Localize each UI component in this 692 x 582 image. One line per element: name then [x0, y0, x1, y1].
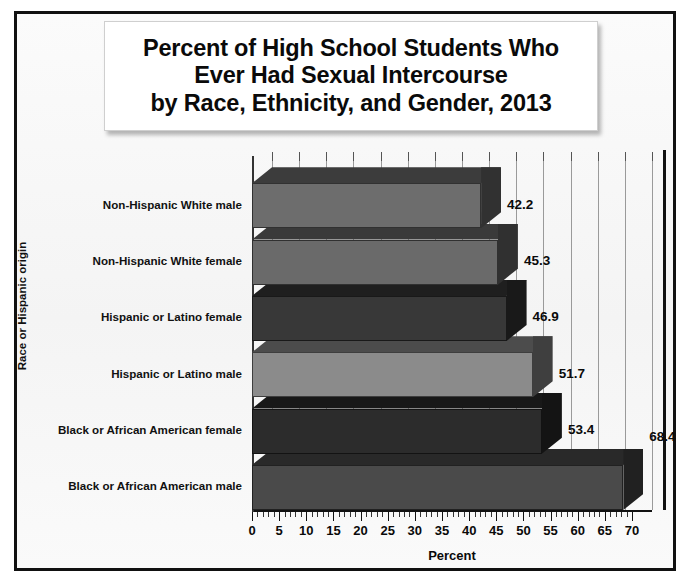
x-axis-major-tick	[496, 512, 497, 521]
x-axis-minor-tick	[464, 512, 465, 517]
x-axis-major-tick	[469, 512, 470, 521]
x-axis-minor-tick	[621, 512, 622, 517]
y-axis-tick-label: Hispanic or Latino female	[101, 310, 242, 323]
x-axis-minor-tick	[290, 512, 291, 517]
bar-value-label: 46.9	[533, 309, 559, 324]
x-axis-minor-tick	[285, 512, 286, 517]
x-axis-tick-label: 40	[462, 523, 476, 538]
x-axis-tick-label: 5	[276, 523, 283, 538]
plot-right-border	[663, 150, 666, 510]
x-axis-minor-tick	[268, 512, 269, 517]
x-axis-major-tick	[578, 512, 579, 521]
x-axis-minor-tick	[491, 512, 492, 517]
x-axis-major-tick	[306, 512, 307, 521]
x-axis-minor-tick	[502, 512, 503, 517]
x-axis-minor-tick	[475, 512, 476, 517]
bar-side-face	[481, 167, 501, 228]
bar-top-face	[252, 167, 501, 183]
x-axis-minor-tick	[382, 512, 383, 517]
x-axis-major-tick	[279, 512, 280, 521]
top-axis-tick	[652, 152, 653, 161]
x-axis-minor-tick	[507, 512, 508, 517]
bar-value-label: 51.7	[559, 366, 585, 381]
x-axis-major-tick	[252, 512, 253, 521]
bar-group	[252, 156, 652, 510]
x-axis-minor-tick	[404, 512, 405, 517]
x-axis-minor-tick	[583, 512, 584, 517]
bar-series: 42.245.346.951.753.468.4	[252, 156, 652, 510]
x-axis-minor-tick	[545, 512, 546, 517]
x-axis-tick-label: 70	[625, 523, 639, 538]
x-axis-minor-tick	[377, 512, 378, 517]
x-axis-tick-label: 60	[570, 523, 584, 538]
x-axis-minor-tick	[426, 512, 427, 517]
x-axis-major-tick	[333, 512, 334, 521]
x-axis-minor-tick	[594, 512, 595, 517]
x-axis-major-tick	[361, 512, 362, 521]
x-axis-minor-tick	[458, 512, 459, 517]
chart-title-line-2: Ever Had Sexual Intercourse	[194, 62, 507, 89]
x-axis: Percent 0510152025303540455055606570	[252, 510, 652, 570]
x-axis-minor-tick	[453, 512, 454, 517]
chart-title-box: Percent of High School Students Who Ever…	[104, 21, 598, 131]
x-axis-minor-tick	[366, 512, 367, 517]
x-axis-minor-tick	[323, 512, 324, 517]
bar-value-label: 68.4	[649, 429, 675, 444]
x-axis-major-tick	[523, 512, 524, 521]
x-axis-major-tick	[605, 512, 606, 521]
chart-page: Percent of High School Students Who Ever…	[0, 0, 692, 582]
x-axis-major-tick	[632, 512, 633, 521]
x-axis-minor-tick	[328, 512, 329, 517]
y-axis-tick-label: Black or African American male	[68, 479, 242, 492]
x-axis-minor-tick	[567, 512, 568, 517]
x-axis-major-tick	[415, 512, 416, 521]
x-axis-minor-tick	[399, 512, 400, 517]
x-axis-minor-tick	[480, 512, 481, 517]
x-axis-major-tick	[551, 512, 552, 521]
x-axis-minor-tick	[317, 512, 318, 517]
x-axis-minor-tick	[301, 512, 302, 517]
x-axis-minor-tick	[589, 512, 590, 517]
x-axis-tick-label: 45	[489, 523, 503, 538]
x-axis-minor-tick	[312, 512, 313, 517]
x-axis-tick-label: 20	[353, 523, 367, 538]
x-axis-tick-label: 50	[516, 523, 530, 538]
x-axis-minor-tick	[627, 512, 628, 517]
gridline	[652, 156, 653, 510]
x-axis-minor-tick	[529, 512, 530, 517]
bar-value-label: 45.3	[524, 253, 550, 268]
x-axis-major-tick	[442, 512, 443, 521]
x-axis-minor-tick	[513, 512, 514, 517]
chart-title-line-3: by Race, Ethnicity, and Gender, 2013	[150, 90, 551, 117]
x-axis-tick-label: 65	[598, 523, 612, 538]
x-axis-major-tick	[388, 512, 389, 521]
y-axis-tick-label: Non-Hispanic White female	[93, 254, 242, 267]
x-axis-minor-tick	[431, 512, 432, 517]
x-axis-tick-label: 15	[326, 523, 340, 538]
x-axis-minor-tick	[420, 512, 421, 517]
x-axis-minor-tick	[437, 512, 438, 517]
x-axis-minor-tick	[350, 512, 351, 517]
plot-area: 42.245.346.951.753.468.4	[252, 156, 652, 510]
y-axis-title: Race or Hispanic origin	[16, 226, 28, 386]
bar-value-label: 42.2	[507, 197, 533, 212]
bar[interactable]	[252, 183, 481, 228]
x-axis-minor-tick	[616, 512, 617, 517]
x-axis-minor-tick	[371, 512, 372, 517]
x-axis-tick-label: 25	[380, 523, 394, 538]
x-axis-minor-tick	[339, 512, 340, 517]
x-axis-tick-label: 35	[435, 523, 449, 538]
x-axis-minor-tick	[599, 512, 600, 517]
x-axis-minor-tick	[393, 512, 394, 517]
x-axis-tick-label: 0	[248, 523, 255, 538]
x-axis-minor-tick	[534, 512, 535, 517]
x-axis-minor-tick	[295, 512, 296, 517]
y-axis-tick-label: Hispanic or Latino male	[111, 367, 242, 380]
x-axis-minor-tick	[485, 512, 486, 517]
x-axis-minor-tick	[540, 512, 541, 517]
x-axis-minor-tick	[610, 512, 611, 517]
x-axis-minor-tick	[344, 512, 345, 517]
x-axis-minor-tick	[447, 512, 448, 517]
x-axis-minor-tick	[518, 512, 519, 517]
x-axis-minor-tick	[556, 512, 557, 517]
